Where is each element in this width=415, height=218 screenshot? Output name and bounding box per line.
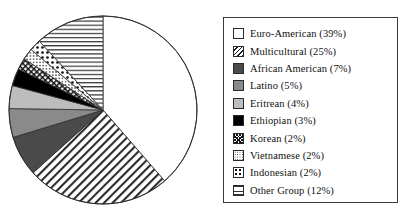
legend-item-label: Other Group (12%) xyxy=(250,185,334,196)
legend-item: Eritrean (4%) xyxy=(233,95,397,112)
legend-item: Multicultural (25%) xyxy=(233,42,397,59)
legend-item: Other Group (12%) xyxy=(233,182,397,199)
legend-item: Indonesian (2%) xyxy=(233,164,397,181)
legend-item: African American (7%) xyxy=(233,60,397,77)
legend-item-label: Eritrean (4%) xyxy=(250,98,309,109)
pie-svg xyxy=(0,0,210,218)
legend-item-label: Ethiopian (3%) xyxy=(250,115,316,126)
legend-item-label: African American (7%) xyxy=(250,63,351,74)
legend-item: Ethiopian (3%) xyxy=(233,112,397,129)
pie-slice-group xyxy=(9,16,197,204)
legend-item: Euro-American (39%) xyxy=(233,25,397,42)
pie-chart-figure: Euro-American (39%)Multicultural (25%)Af… xyxy=(0,0,415,218)
legend-item-label: Multicultural (25%) xyxy=(250,46,336,57)
legend-swatch-icon xyxy=(233,46,244,57)
legend-swatch-icon xyxy=(233,150,244,161)
legend-swatch-icon xyxy=(233,115,244,126)
legend-item-label: Euro-American (39%) xyxy=(250,28,346,39)
legend-swatch-icon xyxy=(233,28,244,39)
legend-swatch-icon xyxy=(233,63,244,74)
legend-item: Vietnamese (2%) xyxy=(233,147,397,164)
legend-swatch-icon xyxy=(233,80,244,91)
legend-item: Korean (2%) xyxy=(233,129,397,146)
legend-item-label: Indonesian (2%) xyxy=(250,167,321,178)
legend-item-label: Vietnamese (2%) xyxy=(250,150,324,161)
pie-plot-area xyxy=(0,0,210,218)
legend-item: Latino (5%) xyxy=(233,77,397,94)
legend-swatch-icon xyxy=(233,98,244,109)
legend-item-label: Latino (5%) xyxy=(250,80,302,91)
legend-swatch-icon xyxy=(233,185,244,196)
legend-item-label: Korean (2%) xyxy=(250,133,306,144)
legend-swatch-icon xyxy=(233,167,244,178)
chart-legend: Euro-American (39%)Multicultural (25%)Af… xyxy=(223,17,398,203)
legend-swatch-icon xyxy=(233,133,244,144)
